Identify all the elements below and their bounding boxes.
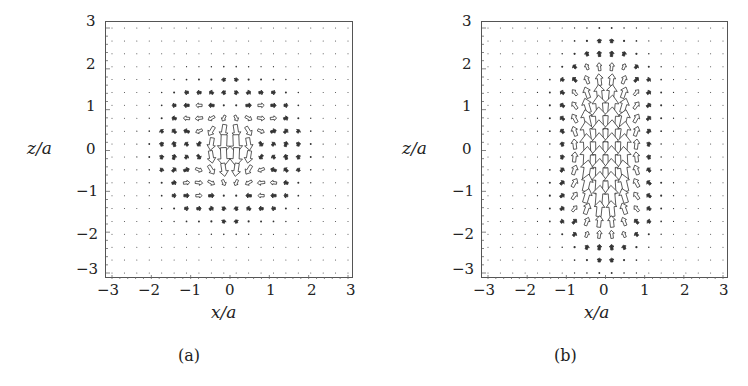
panel-a-ytick: 1 (86, 99, 96, 114)
panel-a-xtick: 3 (346, 283, 356, 298)
panel-b-xtick: 0 (599, 283, 609, 298)
panel-a-ytick: 3 (86, 14, 96, 29)
panel-a-xtick: −3 (97, 283, 119, 298)
panel-b-vector-field (482, 22, 729, 279)
panel-b-ytick: 1 (462, 99, 472, 114)
panel-a-xtick: −2 (138, 283, 160, 298)
panel-b-ytick: 3 (462, 14, 472, 29)
panel-b-caption: (b) (554, 346, 577, 365)
panel-a-plot-area (105, 21, 353, 278)
panel-b-xtick: −3 (473, 283, 495, 298)
panel-b-ytick: −1 (452, 184, 474, 199)
panel-b-xtick: 3 (719, 283, 729, 298)
panel-a-ytick: 2 (86, 57, 96, 72)
panel-b-ytick: 2 (462, 57, 472, 72)
panel-a-xtick: 1 (266, 283, 276, 298)
panel-b-xtick: 2 (680, 283, 690, 298)
panel-b-xtick: 1 (640, 283, 650, 298)
panel-b-xlabel: x/a (584, 302, 609, 322)
panel-a-ytick: −3 (76, 262, 98, 277)
panel-b-ytick: −3 (452, 262, 474, 277)
panel-b-xtick: −2 (514, 283, 536, 298)
panel-a-xtick: 0 (225, 283, 235, 298)
panel-a-ytick: 0 (86, 142, 96, 157)
panel-a-ylabel: z/a (27, 138, 52, 158)
panel-a-xtick: 2 (307, 283, 317, 298)
panel-b-ytick: −2 (452, 227, 474, 242)
panel-a-ytick: −2 (76, 227, 98, 242)
panel-a-xlabel: x/a (211, 302, 236, 322)
panel-a-ytick: −1 (76, 184, 98, 199)
panel-a-xtick: −1 (179, 283, 201, 298)
panel-b-xtick: −1 (554, 283, 576, 298)
panel-a-caption: (a) (178, 346, 200, 365)
panel-a-vector-field (106, 22, 354, 279)
panel-b-plot-area (481, 21, 728, 278)
panel-b-ylabel: z/a (402, 138, 427, 158)
panel-b: z/a 3 2 1 0 −1 −2 −3 −3 −2 −1 0 1 2 3 x/… (374, 0, 748, 386)
panel-a: z/a 3 2 1 0 −1 −2 −3 −3 −2 −1 0 1 2 3 x/… (0, 0, 374, 386)
panel-b-ytick: 0 (462, 142, 472, 157)
